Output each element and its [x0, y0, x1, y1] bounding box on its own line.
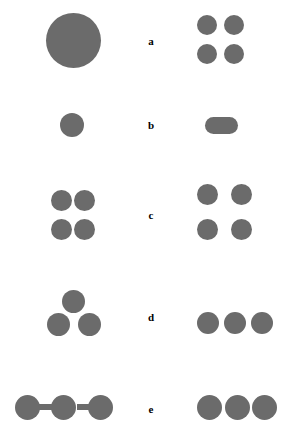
- row-a-right-circle-bottom-right: [224, 44, 244, 64]
- row-e-right-circle-left: [197, 395, 222, 420]
- row-e-left-circle-left: [15, 395, 40, 420]
- row-c-right-circle-bottom-right: [231, 219, 252, 240]
- row-e-left-circle-right: [88, 395, 113, 420]
- row-e-left-circle-middle: [51, 395, 76, 420]
- row-c-left-circle-top-left: [51, 190, 72, 211]
- row-b-left-single-circle: [60, 113, 84, 137]
- row-c-left-circle-bottom-left: [51, 219, 72, 240]
- row-d-left-circle-apex: [62, 290, 85, 313]
- row-label-b: b: [141, 120, 161, 131]
- row-d-right-circle-right: [251, 312, 273, 334]
- row-e-right-circle-middle: [225, 395, 250, 420]
- row-label-e: e: [141, 404, 161, 415]
- row-a-right-circle-bottom-left: [197, 44, 217, 64]
- row-a-right-circle-top-left: [197, 15, 217, 35]
- row-c-right-circle-bottom-left: [197, 219, 218, 240]
- row-e-left-connector-bar-left: [38, 404, 52, 410]
- row-d-right-circle-left: [197, 312, 219, 334]
- row-d-left-circle-base-right: [78, 313, 101, 336]
- row-label-c: c: [141, 210, 161, 221]
- row-label-d: d: [141, 312, 161, 323]
- row-label-a: a: [141, 36, 161, 47]
- row-c-right-circle-top-left: [197, 184, 218, 205]
- row-d-left-circle-base-left: [47, 313, 70, 336]
- row-d-right-circle-middle: [224, 312, 246, 334]
- row-a-right-circle-top-right: [224, 15, 244, 35]
- row-c-left-circle-bottom-right: [74, 219, 95, 240]
- figure-panel-container: abcde: [0, 0, 294, 432]
- row-b-right-horizontal-capsule: [205, 117, 238, 134]
- row-a-left-large-circle: [46, 13, 101, 68]
- row-e-right-circle-right: [252, 395, 277, 420]
- row-c-right-circle-top-right: [231, 184, 252, 205]
- row-c-left-circle-top-right: [74, 190, 95, 211]
